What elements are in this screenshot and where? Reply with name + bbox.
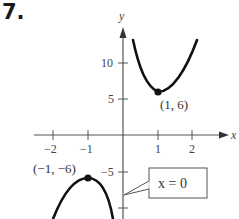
curve-left-branch xyxy=(53,178,113,219)
x-axis-arrow-icon xyxy=(219,132,229,139)
y-tick-label: −5 xyxy=(101,165,114,179)
point-label: (−1, −6) xyxy=(33,161,76,176)
point-marker xyxy=(154,88,161,95)
y-axis: y 10 5 −5 xyxy=(101,9,128,219)
x-tick-label: 2 xyxy=(189,142,195,156)
curve-right-branch xyxy=(133,40,197,92)
y-axis-label: y xyxy=(118,9,125,23)
callout-label: x = 0 xyxy=(158,176,187,191)
y-tick-label: 10 xyxy=(101,56,113,70)
graph: x −2 −1 1 2 y 10 5 −5 (1, 6) (−1, −6) x … xyxy=(0,0,239,219)
asymptote-callout: x = 0 xyxy=(124,168,207,198)
x-tick-label: −2 xyxy=(44,142,57,156)
point-marker xyxy=(84,174,91,181)
y-axis-arrow-icon xyxy=(120,27,127,38)
point-label: (1, 6) xyxy=(160,97,188,112)
x-axis: x −2 −1 1 2 xyxy=(34,128,237,156)
x-axis-label: x xyxy=(230,128,237,142)
x-tick-label: 1 xyxy=(155,142,161,156)
y-tick-label: 5 xyxy=(108,92,114,106)
x-tick-label: −1 xyxy=(80,142,93,156)
